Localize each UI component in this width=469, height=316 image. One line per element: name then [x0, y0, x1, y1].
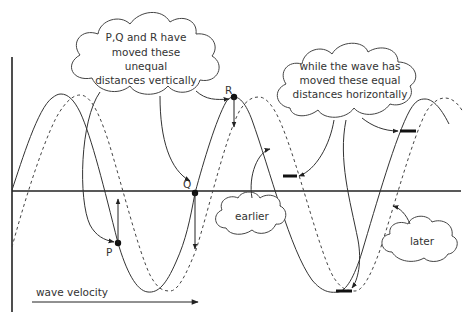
- point-R-label: R: [225, 84, 232, 96]
- cloud-later: later: [382, 216, 457, 261]
- cloud-vertical-line-3: unequal: [125, 60, 167, 72]
- cloud-vertical-line-1: P,Q and R have: [106, 31, 187, 43]
- pointer-to-bar-2: [362, 118, 398, 131]
- horizontal-distance-bars: [283, 131, 416, 291]
- point-P: P: [106, 199, 121, 258]
- wave-velocity: wave velocity: [32, 286, 198, 302]
- pointer-to-bar-1: [299, 120, 334, 176]
- cloud-horizontal-line-3: distances horizontally: [293, 88, 408, 100]
- wave-earlier-solid: [12, 94, 449, 292]
- point-P-label: P: [106, 246, 112, 258]
- cloud-horizontal-distances: while the wave has moved these equal dis…: [277, 43, 415, 117]
- wave-motion-diagram: P Q R P,Q and R have moved these unequal…: [0, 0, 469, 316]
- cloud-earlier: earlier: [216, 192, 286, 234]
- wave-later-dashed: [12, 95, 463, 291]
- wave-velocity-label: wave velocity: [36, 286, 108, 298]
- cloud-vertical-line-2: moved these: [112, 46, 181, 58]
- cloud-vertical-distances: P,Q and R have moved these unequal dista…: [71, 12, 219, 94]
- cloud-horizontal-line-2: moved these equal: [300, 74, 401, 86]
- cloud-earlier-label: earlier: [235, 210, 270, 222]
- cloud-horizontal-line-1: while the wave has: [299, 60, 400, 72]
- cloud-vertical-line-4: distances vertically: [95, 74, 197, 86]
- cloud-later-label: later: [410, 235, 435, 247]
- pointer-to-bar-3: [343, 120, 359, 288]
- pointer-to-Q: [160, 96, 190, 181]
- point-R: R: [225, 84, 237, 127]
- pointer-later-to-dashed: [393, 206, 410, 224]
